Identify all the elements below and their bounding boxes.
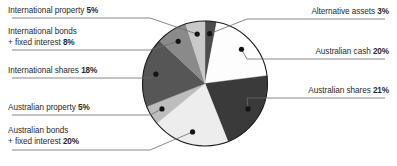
label-australian-cash-text: Australian cash <box>315 47 372 56</box>
label-australian-bonds[interactable]: Australian bonds + fixed interest 20% <box>8 126 79 147</box>
slice-marker-dot <box>245 106 250 111</box>
label-international-property-text: International property <box>8 6 87 15</box>
label-australian-property[interactable]: Australian property 5% <box>8 103 90 114</box>
label-australian-cash-value: 20% <box>373 47 389 56</box>
label-australian-bonds-line2-text: + fixed interest <box>8 137 63 146</box>
label-international-bonds[interactable]: International bonds + fixed interest 8% <box>8 27 77 48</box>
label-international-shares-text: International shares <box>8 66 81 75</box>
slice-marker-dot <box>195 32 200 37</box>
label-australian-bonds-value: 20% <box>63 137 79 146</box>
label-australian-bonds-line1: Australian bonds <box>8 126 79 137</box>
label-international-bonds-line2-text: + fixed interest <box>8 38 63 47</box>
label-australian-shares-value: 21% <box>373 86 389 95</box>
label-international-bonds-line1: International bonds <box>8 27 77 38</box>
label-international-bonds-line2: + fixed interest 8% <box>8 38 77 49</box>
label-international-property-value: 5% <box>87 6 99 15</box>
label-international-shares-value: 18% <box>81 66 97 75</box>
label-alternative-assets-text: Alternative assets <box>311 7 377 16</box>
slice-marker-dot <box>207 31 212 36</box>
label-australian-shares-text: Australian shares <box>308 86 373 95</box>
pie-chart-figure: International property 5% International … <box>0 0 397 166</box>
label-alternative-assets[interactable]: Alternative assets 3% <box>311 7 389 18</box>
label-international-bonds-value: 8% <box>63 38 75 47</box>
slice-marker-dot <box>239 47 244 52</box>
slice-marker-dot <box>159 106 164 111</box>
label-alternative-assets-value: 3% <box>377 7 389 16</box>
label-australian-property-text: Australian property <box>8 103 78 112</box>
label-australian-bonds-line2: + fixed interest 20% <box>8 137 79 148</box>
slice-marker-dot <box>153 72 158 77</box>
label-australian-shares[interactable]: Australian shares 21% <box>308 86 389 97</box>
label-australian-property-value: 5% <box>78 103 90 112</box>
slice-marker-dot <box>176 39 181 44</box>
label-international-property[interactable]: International property 5% <box>8 6 98 17</box>
label-international-shares[interactable]: International shares 18% <box>8 66 97 77</box>
label-australian-cash[interactable]: Australian cash 20% <box>315 47 389 58</box>
slice-marker-dot <box>190 129 195 134</box>
pie-slices-group <box>143 21 268 146</box>
